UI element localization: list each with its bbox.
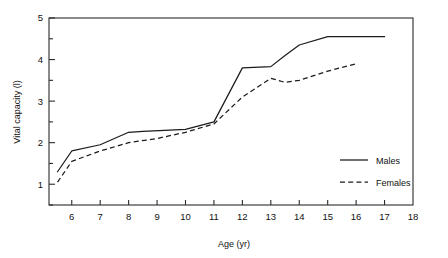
x-tick-label: 8 (126, 211, 131, 222)
plot-frame (49, 18, 413, 205)
series-line-males (58, 37, 385, 172)
x-tick-label: 7 (98, 211, 103, 222)
y-tick-label: 5 (38, 12, 43, 23)
x-tick-label: 18 (408, 211, 419, 222)
x-tick-label: 14 (294, 211, 305, 222)
x-tick-label: 12 (237, 211, 248, 222)
y-axis-ticks (49, 18, 55, 205)
x-tick-label: 11 (209, 211, 219, 222)
x-tick-label: 17 (379, 211, 390, 222)
x-tick-label: 16 (351, 211, 362, 222)
series-line-females (58, 64, 357, 182)
x-tick-label: 13 (266, 211, 277, 222)
y-tick-label: 3 (38, 96, 43, 107)
y-tick-label: 2 (38, 137, 43, 148)
vital-capacity-line-chart: 12345 6789101112131415161718 Age (yr) Vi… (0, 0, 448, 258)
x-tick-label: 15 (322, 211, 333, 222)
y-tick-label: 4 (38, 54, 43, 65)
x-axis-ticks (72, 200, 385, 205)
x-axis-tick-labels: 6789101112131415161718 (69, 211, 418, 222)
y-axis-title: Vital capacity (l) (12, 80, 22, 143)
legend-label-males: Males (376, 156, 401, 166)
x-tick-label: 9 (154, 211, 159, 222)
y-tick-label: 1 (38, 179, 43, 190)
x-axis-title: Age (yr) (218, 239, 250, 249)
chart-legend: Males Females (340, 156, 411, 188)
legend-label-females: Females (376, 178, 411, 188)
y-axis-tick-labels: 12345 (38, 12, 43, 189)
data-series-group (58, 37, 385, 182)
x-tick-label: 10 (180, 211, 191, 222)
x-tick-label: 6 (69, 211, 74, 222)
